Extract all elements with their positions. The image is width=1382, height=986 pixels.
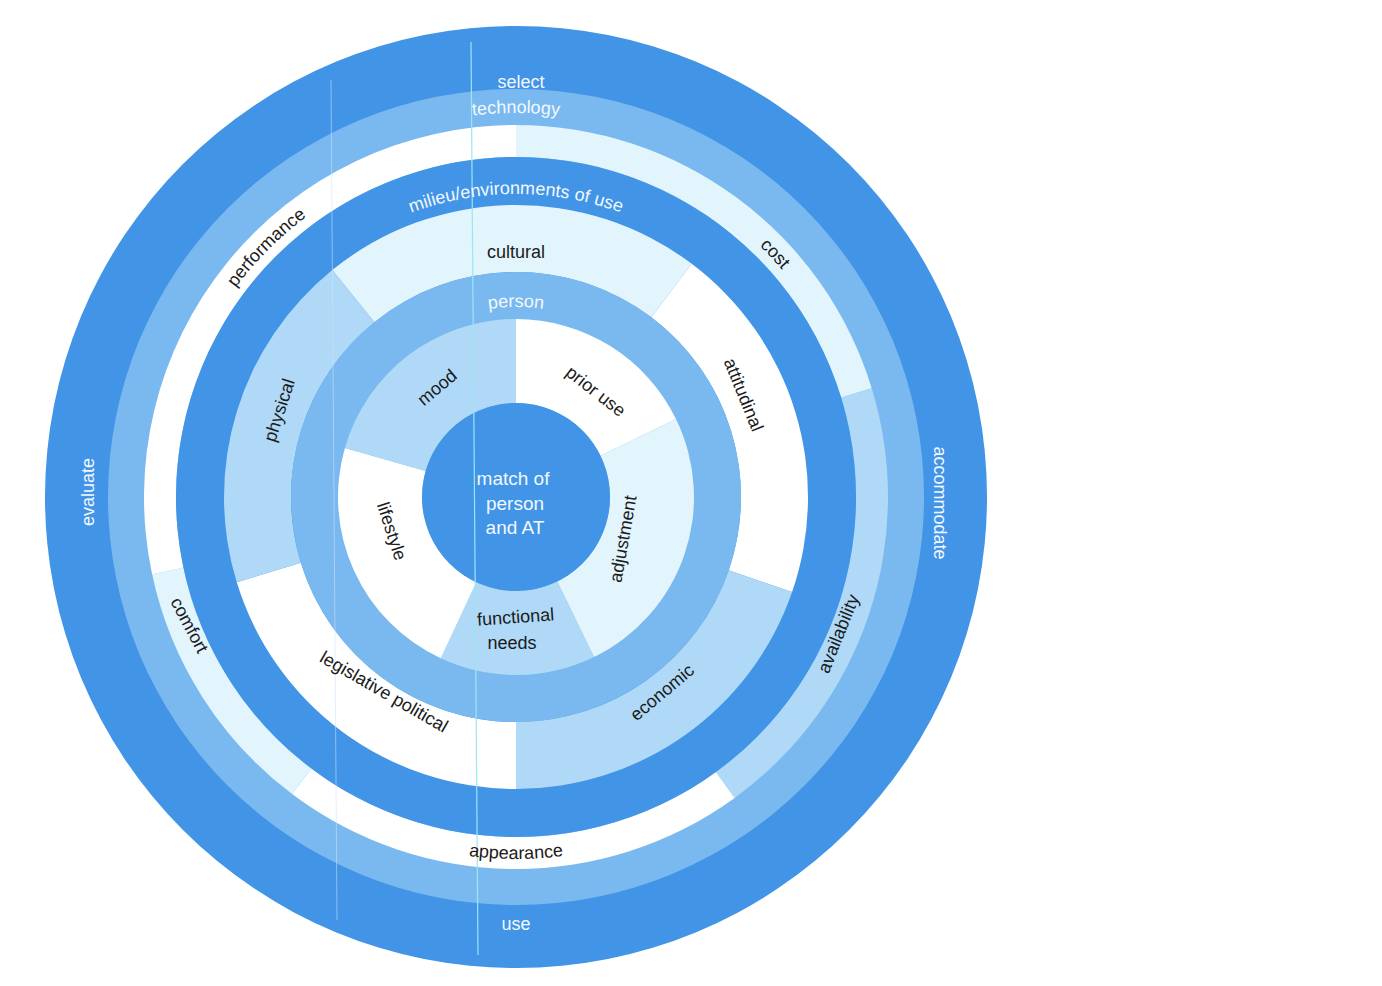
center-label-line-3: and AT xyxy=(486,517,545,538)
center-label-line-1: match of xyxy=(477,468,551,489)
tech-label-appearance: appearance xyxy=(468,840,564,863)
center-label-line-2: person xyxy=(486,493,544,514)
outer-label-use: use xyxy=(501,914,530,934)
person-label-functional-needs-2: needs xyxy=(487,633,536,653)
person-band-label: person xyxy=(487,291,546,313)
outer-label-accommodate: accommodate xyxy=(930,446,950,559)
milieu-label-cultural: cultural xyxy=(487,242,545,262)
matching-person-technology-diagram: select use accommodate evaluate technolo… xyxy=(0,0,1382,986)
outer-label-select: select xyxy=(497,72,544,92)
outer-label-evaluate: evaluate xyxy=(78,458,98,526)
technology-band-label: technology xyxy=(471,97,561,119)
